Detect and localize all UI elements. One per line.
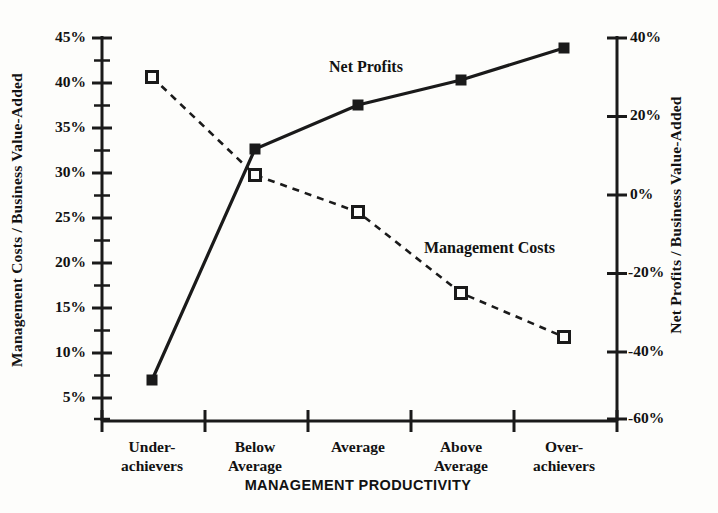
category-label-line-2: achievers (92, 456, 212, 475)
left-tick-label-40: 40% (30, 73, 86, 91)
category-label-line-2: Average (401, 456, 521, 475)
right-axis-title: Net Profits / Business Value-Added (663, 0, 689, 430)
left-tick-label-20: 20% (30, 253, 86, 271)
left-tick-label-10: 10% (30, 343, 86, 361)
category-label-line-2: Average (195, 456, 315, 475)
category-label-underachievers: Under- achievers (92, 437, 212, 475)
left-axis-title: Management Costs / Business Value-Added (4, 0, 30, 440)
category-label-line-1: Over- (504, 437, 624, 456)
x-axis-title: MANAGEMENT PRODUCTIVITY (138, 477, 578, 493)
category-label-line-1: Under- (92, 437, 212, 456)
left-tick-label-45: 45% (30, 28, 86, 46)
series-annotation-net-profits: Net Profits (329, 58, 403, 76)
series-annotation-management-costs: Management Costs (424, 239, 555, 257)
category-label-above-average: Above Average (401, 437, 521, 475)
category-label-average: Average (298, 437, 418, 456)
category-label-line-1: Average (298, 437, 418, 456)
left-tick-label-15: 15% (30, 298, 86, 316)
category-label-overachievers: Over- achievers (504, 437, 624, 475)
left-tick-label-5: 5% (30, 388, 86, 406)
category-label-line-2: achievers (504, 456, 624, 475)
category-label-line-1: Above (401, 437, 521, 456)
category-label-line-1: Below (195, 437, 315, 456)
left-tick-label-25: 25% (30, 208, 86, 226)
chart-figure: 45% 40% 35% 30% 25% 20% 15% 10% 5% 40% 2… (0, 0, 718, 513)
left-tick-label-30: 30% (30, 163, 86, 181)
category-label-below-average: Below Average (195, 437, 315, 475)
left-tick-label-35: 35% (30, 118, 86, 136)
series-markers-management-costs (147, 72, 570, 343)
